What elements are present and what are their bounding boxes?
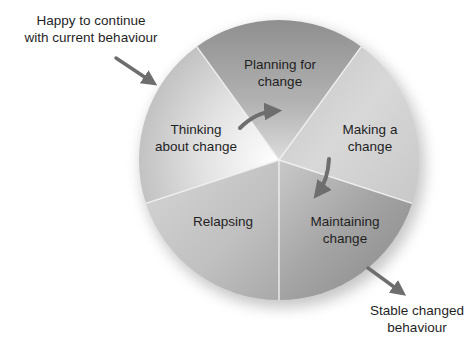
label-maintaining: Maintaining change xyxy=(290,213,400,247)
label-planning-line-2: change xyxy=(230,73,330,90)
label-planning: Planning for change xyxy=(230,56,330,90)
label-entry-line-2: with current behaviour xyxy=(6,29,176,46)
label-entry: Happy to continue with current behaviour xyxy=(6,12,176,46)
arrow-exit-icon xyxy=(368,268,401,292)
label-exit-line-1: Stable changed xyxy=(362,302,471,319)
label-maintaining-line-1: Maintaining xyxy=(290,213,400,230)
label-relapsing-line-1: Relapsing xyxy=(173,213,273,230)
arrow-entry-icon xyxy=(116,58,152,82)
label-planning-line-1: Planning for xyxy=(230,56,330,73)
label-maintaining-line-2: change xyxy=(290,230,400,247)
label-entry-line-1: Happy to continue xyxy=(6,12,176,29)
label-exit: Stable changed behaviour xyxy=(362,302,471,336)
label-making-line-1: Making a xyxy=(320,121,420,138)
label-making-line-2: change xyxy=(320,138,420,155)
label-thinking: Thinking about change xyxy=(141,121,251,155)
label-relapsing: Relapsing xyxy=(173,213,273,230)
label-thinking-line-1: Thinking xyxy=(141,121,251,138)
label-exit-line-2: behaviour xyxy=(362,319,471,336)
label-thinking-line-2: about change xyxy=(141,138,251,155)
label-making: Making a change xyxy=(320,121,420,155)
cycle-of-change-diagram: Happy to continue with current behaviour… xyxy=(0,0,471,356)
